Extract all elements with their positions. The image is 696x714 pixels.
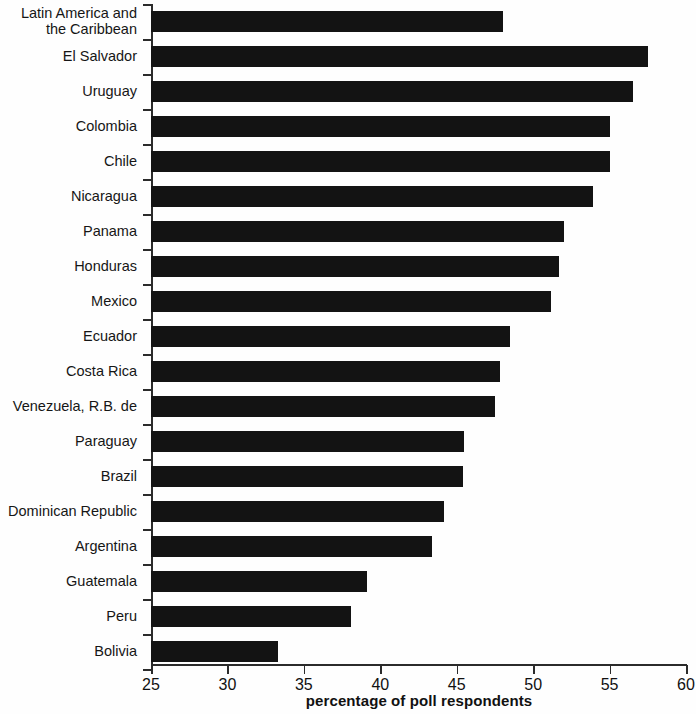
y-axis-label: Argentina [6, 538, 151, 554]
bar-row [151, 39, 686, 74]
x-axis-tick [457, 665, 459, 674]
bar-row [151, 424, 686, 459]
y-axis-label: Ecuador [6, 328, 151, 344]
bar-row [151, 354, 686, 389]
x-axis-tick [227, 665, 229, 674]
y-axis-label: El Salvador [6, 48, 151, 64]
x-axis-title: percentage of poll respondents [151, 692, 687, 709]
bar [151, 606, 351, 627]
bar [151, 81, 633, 102]
bar-row [151, 249, 686, 284]
y-axis-label: Chile [6, 153, 151, 169]
bar [151, 571, 367, 592]
bar [151, 466, 463, 487]
y-axis-labels: Latin America and the CaribbeanEl Salvad… [0, 4, 151, 665]
bar-row [151, 319, 686, 354]
bar [151, 256, 559, 277]
bar-row [151, 109, 686, 144]
bar [151, 11, 503, 32]
bar-row [151, 599, 686, 634]
bar-chart: Latin America and the CaribbeanEl Salvad… [0, 0, 696, 714]
bar-row [151, 634, 686, 669]
bar-row [151, 74, 686, 109]
bar-row [151, 459, 686, 494]
bar [151, 186, 593, 207]
x-axis-tick [533, 665, 535, 674]
bar [151, 151, 610, 172]
bar [151, 501, 444, 522]
bar [151, 291, 551, 312]
bar-row [151, 4, 686, 39]
bar [151, 326, 510, 347]
x-axis-tick [686, 665, 688, 674]
bar [151, 221, 564, 242]
bar [151, 116, 610, 137]
bar [151, 361, 500, 382]
plot-area [151, 4, 686, 664]
x-axis-tick [151, 665, 153, 674]
y-axis-label: Nicaragua [6, 188, 151, 204]
y-axis-label: Brazil [6, 468, 151, 484]
y-axis-label: Uruguay [6, 83, 151, 99]
y-axis-label: Costa Rica [6, 363, 151, 379]
bar-row [151, 389, 686, 424]
y-axis-label: Peru [6, 608, 151, 624]
y-axis-label: Colombia [6, 118, 151, 134]
bar-row [151, 529, 686, 564]
x-axis-tick [304, 665, 306, 674]
x-axis-tick [610, 665, 612, 674]
y-axis-label: Bolivia [6, 643, 151, 659]
y-axis-label: Latin America and the Caribbean [6, 5, 151, 37]
bar [151, 641, 278, 662]
bar [151, 431, 464, 452]
bar-row [151, 214, 686, 249]
y-axis-label: Mexico [6, 293, 151, 309]
y-axis-label: Panama [6, 223, 151, 239]
bar [151, 396, 495, 417]
bar [151, 536, 432, 557]
y-axis-label: Honduras [6, 258, 151, 274]
bar-row [151, 564, 686, 599]
y-axis-label: Venezuela, R.B. de [6, 398, 151, 414]
y-axis-label: Guatemala [6, 573, 151, 589]
y-axis-label: Dominican Republic [6, 503, 151, 519]
y-axis-label: Paraguay [6, 433, 151, 449]
bar-row [151, 179, 686, 214]
x-axis-tick [380, 665, 382, 674]
bar-row [151, 494, 686, 529]
bar-row [151, 144, 686, 179]
bar-row [151, 284, 686, 319]
bar [151, 46, 648, 67]
